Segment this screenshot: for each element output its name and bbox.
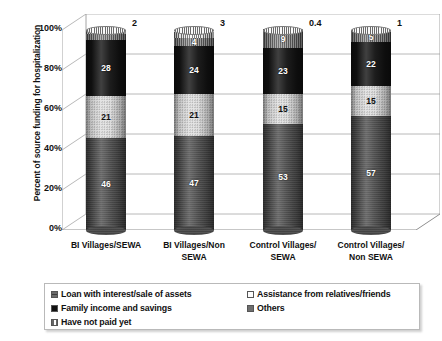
cylinder-bar[interactable]: 5715225: [351, 30, 391, 230]
bar-outside-value-label: 1: [397, 18, 402, 28]
bar-group[interactable]: 4621282: [86, 30, 126, 230]
y-axis-tick-20: 20%: [22, 184, 62, 193]
cylinder-shading: [263, 94, 303, 124]
legend-label: Loan with interest/sale of assets: [61, 289, 191, 299]
legend-swatch: [51, 305, 58, 312]
cylinder-shading: [351, 42, 391, 86]
bar-group[interactable]: 57152251: [351, 30, 391, 230]
x-axis-label: Control Villages/Non SEWA: [323, 240, 419, 263]
legend-swatch: [247, 305, 254, 312]
y-axis-tick-60: 60%: [22, 104, 62, 113]
legend-column-left: Loan with interest/sale of assetsFamily …: [51, 287, 251, 329]
bar-outside-value-label: 2: [132, 18, 137, 28]
bar-outside-value-label: 0.4: [309, 18, 322, 28]
y-axis-tick-80: 80%: [22, 64, 62, 73]
x-axis-label-line: Control Villages/: [323, 240, 419, 252]
y-axis-tick-0: 0%: [22, 224, 62, 233]
cylinder-shading: [86, 40, 126, 96]
bar-segment[interactable]: 21: [86, 96, 126, 138]
cylinder-shading: [86, 34, 126, 40]
legend-label: Assistance from relatives/friends: [257, 289, 390, 299]
legend-item[interactable]: Assistance from relatives/friends: [247, 287, 422, 301]
cylinder-shading: [174, 46, 214, 94]
cylinder-shading: [263, 124, 303, 230]
bar-segment[interactable]: 4: [174, 38, 214, 46]
legend-swatch: [51, 291, 58, 298]
bar-segment[interactable]: 15: [351, 86, 391, 116]
y-axis-tick-100: 100%: [22, 24, 62, 33]
bar-outside-value-label: 3: [220, 18, 225, 28]
chart-legend: Loan with interest/sale of assetsFamily …: [44, 283, 420, 330]
bar-segment[interactable]: 46: [86, 138, 126, 230]
cylinder-top-cap: [174, 26, 214, 35]
cylinder-top-cap: [263, 26, 303, 35]
bar-segment[interactable]: 57: [351, 116, 391, 230]
cylinder-shading: [86, 138, 126, 230]
cylinder-shading: [86, 96, 126, 138]
legend-label: Family income and savings: [61, 303, 172, 313]
legend-swatch: [51, 319, 58, 326]
legend-label: Others: [257, 303, 284, 313]
bar-segment[interactable]: 47: [174, 136, 214, 230]
bar-segment[interactable]: 24: [174, 46, 214, 94]
cylinder-shading: [174, 94, 214, 136]
x-axis-label-line: BI Villages/SEWA: [58, 240, 154, 252]
x-axis-label: BI Villages/SEWA: [58, 240, 154, 252]
legend-swatch: [247, 291, 254, 298]
bar-segment[interactable]: 15: [263, 94, 303, 124]
cylinder-shading: [174, 38, 214, 46]
x-axis-label: Control Villages/SEWA: [235, 240, 331, 263]
cylinder-bar[interactable]: 5315239: [263, 30, 303, 230]
cylinder-bottom-cap: [86, 226, 126, 235]
cylinder-bar[interactable]: 462128: [86, 30, 126, 230]
bar-segment[interactable]: 53: [263, 124, 303, 230]
cylinder-top-cap: [351, 26, 391, 35]
legend-item[interactable]: Others: [247, 301, 422, 315]
cylinder-shading: [174, 136, 214, 230]
x-axis-label-line: SEWA: [146, 252, 242, 264]
bar-segment[interactable]: 21: [174, 94, 214, 136]
bar-group[interactable]: 53152390.4: [263, 30, 303, 230]
legend-item[interactable]: Have not paid yet: [51, 315, 251, 329]
legend-column-right: Assistance from relatives/friendsOthers: [247, 287, 422, 315]
bar-segment[interactable]: [86, 34, 126, 40]
chart-container: Percent of source funding for hospitaliz…: [0, 0, 442, 341]
cylinder-shading: [351, 86, 391, 116]
legend-label: Have not paid yet: [61, 317, 131, 327]
x-axis-label-line: SEWA: [235, 252, 331, 264]
cylinder-bottom-cap: [263, 226, 303, 235]
x-axis-label-line: Control Villages/: [235, 240, 331, 252]
legend-item[interactable]: Loan with interest/sale of assets: [51, 287, 251, 301]
x-axis-label: BI Villages/NonSEWA: [146, 240, 242, 263]
cylinder-top-cap: [86, 26, 126, 35]
cylinder-bar[interactable]: 4721244: [174, 30, 214, 230]
cylinder-bottom-cap: [174, 226, 214, 235]
cylinder-shading: [351, 116, 391, 230]
cylinder-shading: [263, 48, 303, 94]
y-axis-tick-40: 40%: [22, 144, 62, 153]
bar-segment[interactable]: 22: [351, 42, 391, 86]
bar-group[interactable]: 47212443: [174, 30, 214, 230]
cylinder-bottom-cap: [351, 226, 391, 235]
bar-segment[interactable]: 28: [86, 40, 126, 96]
bars-layer: 46212824721244353152390.457152251: [62, 14, 440, 230]
bar-segment[interactable]: 23: [263, 48, 303, 94]
legend-item[interactable]: Family income and savings: [51, 301, 251, 315]
x-axis-label-line: Non SEWA: [323, 252, 419, 264]
x-axis-labels: BI Villages/SEWABI Villages/NonSEWAContr…: [62, 240, 440, 276]
x-axis-label-line: BI Villages/Non: [146, 240, 242, 252]
